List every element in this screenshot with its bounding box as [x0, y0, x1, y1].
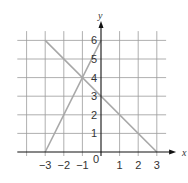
y-tick-label: 5 — [91, 53, 97, 65]
y-axis-arrow-icon — [99, 21, 104, 28]
y-tick-label: 4 — [91, 72, 97, 84]
tick-labels: xy−3−2−11230123456 — [39, 10, 187, 171]
x-tick-label: −3 — [39, 159, 52, 171]
y-tick-label: 3 — [91, 90, 97, 102]
coordinate-graph: xy−3−2−11230123456 — [0, 0, 188, 183]
x-tick-label: 1 — [117, 159, 123, 171]
y-tick-label: 6 — [91, 34, 97, 46]
x-tick-label: −2 — [58, 159, 71, 171]
origin-label: 0 — [93, 153, 99, 165]
y-tick-label: 1 — [91, 127, 97, 139]
x-axis-arrow-icon — [169, 150, 176, 155]
y-tick-label: 2 — [91, 109, 97, 121]
x-tick-label: 3 — [154, 159, 160, 171]
x-axis-label: x — [181, 147, 187, 158]
x-tick-label: 2 — [135, 159, 141, 171]
x-tick-label: −1 — [76, 159, 89, 171]
y-axis-label: y — [97, 10, 103, 21]
